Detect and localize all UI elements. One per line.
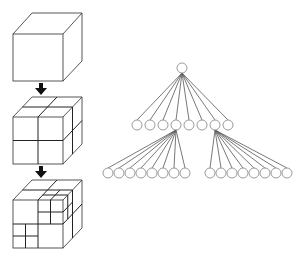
- tree-edge: [215, 130, 287, 168]
- tree-edge: [119, 130, 176, 168]
- tree-edge: [215, 130, 243, 168]
- cube-level-0: [13, 13, 82, 81]
- tree-level2-node: [147, 168, 157, 178]
- tree-level1-node: [145, 120, 155, 130]
- tree-level2-node: [282, 168, 292, 178]
- tree-level1-node: [158, 120, 168, 130]
- tree-level2-node: [238, 168, 248, 178]
- down-arrow-icon: [35, 83, 47, 95]
- tree-edge: [215, 130, 276, 168]
- tree-level2-node: [249, 168, 259, 178]
- tree-level1-node: [132, 120, 142, 130]
- tree-root-node: [177, 63, 187, 73]
- tree-level2-node: [271, 168, 281, 178]
- tree-level2-node: [136, 168, 146, 178]
- tree-level2-node: [180, 168, 190, 178]
- tree-edge: [152, 130, 176, 168]
- tree-edge: [182, 73, 202, 120]
- cube-level-1: [13, 97, 82, 164]
- tree-level2-node: [103, 168, 113, 178]
- tree-level1-node: [184, 120, 194, 130]
- tree-level2-node: [158, 168, 168, 178]
- tree-level2-node: [227, 168, 237, 178]
- cube-level-2: [13, 180, 82, 248]
- tree-edge: [137, 73, 182, 120]
- tree-edge: [108, 130, 176, 168]
- down-arrow-icon: [35, 166, 47, 178]
- tree-level2-node: [216, 168, 226, 178]
- octree-diagram: [0, 0, 302, 261]
- tree-level1-node: [210, 120, 220, 130]
- tree-level2-node: [260, 168, 270, 178]
- tree-edge: [182, 73, 189, 120]
- tree-edge: [182, 73, 215, 120]
- tree-edge: [215, 130, 254, 168]
- tree-level2-node: [114, 168, 124, 178]
- tree-edge: [182, 73, 228, 120]
- tree-level2-node: [205, 168, 215, 178]
- tree-edge: [215, 130, 221, 168]
- tree-level1-node: [171, 120, 181, 130]
- tree-edge: [176, 130, 185, 168]
- tree-level1-node: [223, 120, 233, 130]
- tree-level2-node: [125, 168, 135, 178]
- tree-edge: [215, 130, 265, 168]
- tree-edge: [141, 130, 176, 168]
- tree-level2-node: [169, 168, 179, 178]
- tree-level1-node: [197, 120, 207, 130]
- tree-edge: [210, 130, 215, 168]
